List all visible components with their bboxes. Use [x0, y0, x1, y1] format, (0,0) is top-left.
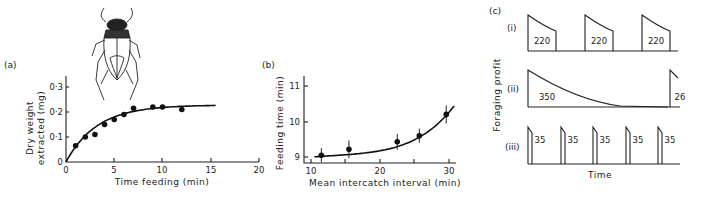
svg-text:35: 35: [600, 135, 611, 145]
svg-text:35: 35: [665, 135, 676, 145]
data-point: [150, 104, 156, 110]
svg-text:10: 10: [289, 117, 300, 127]
data-point: [111, 117, 117, 123]
data-point: [102, 122, 108, 128]
svg-text:0: 0: [63, 165, 68, 175]
figure: (a) Dry weight extracted (mg) 0 0·1 0·2 …: [0, 0, 704, 198]
y-axis-label: Dry weight extracted (mg): [25, 91, 46, 166]
series-i: (i) 220 220 220: [507, 15, 678, 51]
series-ii: (ii) 350 26: [507, 70, 685, 107]
svg-text:10: 10: [157, 165, 168, 175]
panel-b: (b) Feeding time (min) 9 10 11 10 20 30 …: [262, 60, 461, 188]
panel-c: (c) Foraging profit Time (i) 220 220 220…: [489, 6, 685, 180]
x-ticks: 10 20 30: [306, 159, 455, 176]
data-point: [131, 105, 137, 111]
x-axis-label: Mean intercatch interval (min): [309, 178, 461, 188]
x-axis-label: Time: [587, 170, 612, 180]
fit-curve: [66, 105, 216, 162]
svg-text:0: 0: [58, 157, 63, 167]
svg-text:220: 220: [591, 36, 607, 46]
data-point: [417, 133, 423, 139]
svg-text:20: 20: [375, 166, 386, 176]
svg-text:220: 220: [534, 36, 550, 46]
data-points: [319, 106, 449, 163]
data-points: [73, 104, 185, 148]
data-point: [160, 104, 166, 110]
data-point: [346, 146, 352, 152]
svg-text:26: 26: [675, 92, 686, 102]
svg-text:5: 5: [111, 165, 116, 175]
svg-text:10: 10: [306, 166, 317, 176]
svg-text:Dry weight: Dry weight: [25, 101, 35, 155]
svg-text:35: 35: [535, 135, 546, 145]
data-point: [73, 143, 79, 149]
data-point: [179, 107, 185, 113]
axes: [304, 76, 456, 163]
series-iii: (iii) 35 35 35 35 35: [505, 127, 680, 164]
svg-text:35: 35: [633, 135, 644, 145]
data-point: [319, 152, 325, 158]
axes: [66, 76, 259, 162]
svg-text:0·2: 0·2: [49, 107, 63, 117]
panel-a-label: (a): [4, 60, 17, 70]
x-ticks: 0 5 10 15 20: [63, 158, 264, 175]
svg-text:extracted (mg): extracted (mg): [36, 91, 46, 166]
svg-text:30: 30: [444, 166, 455, 176]
svg-text:0·1: 0·1: [49, 132, 63, 142]
svg-text:35: 35: [568, 135, 579, 145]
fit-curve: [314, 106, 454, 157]
panel-a: (a) Dry weight extracted (mg) 0 0·1 0·2 …: [4, 60, 264, 187]
data-point: [92, 132, 98, 138]
svg-text:20: 20: [254, 165, 265, 175]
data-point: [443, 112, 449, 118]
beetle-illustration: [92, 8, 140, 100]
data-point: [121, 112, 127, 118]
svg-text:350: 350: [539, 92, 555, 102]
svg-text:(i): (i): [507, 23, 517, 33]
svg-text:11: 11: [289, 81, 300, 91]
data-point: [394, 139, 400, 145]
y-axis-label: Feeding time (min): [275, 76, 285, 170]
panel-b-label: (b): [262, 60, 275, 70]
svg-text:220: 220: [648, 36, 664, 46]
data-point: [83, 134, 89, 140]
svg-text:15: 15: [206, 165, 217, 175]
svg-text:(iii): (iii): [505, 142, 520, 152]
x-axis-label: Time feeding (min): [114, 177, 210, 187]
y-axis-label: Foraging profit: [492, 58, 502, 132]
svg-text:(ii): (ii): [507, 84, 519, 94]
svg-text:0·3: 0·3: [49, 82, 63, 92]
y-ticks: 9 10 11: [289, 81, 308, 162]
panel-c-label: (c): [489, 6, 501, 16]
svg-text:9: 9: [295, 152, 300, 162]
